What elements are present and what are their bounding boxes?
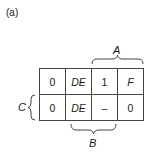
brace-b-label: B xyxy=(89,137,96,149)
braces-overlay xyxy=(0,0,155,168)
brace-c-icon xyxy=(28,95,35,120)
brace-a-icon xyxy=(92,55,143,64)
brace-c-label: C xyxy=(18,101,26,113)
brace-b-icon xyxy=(71,124,116,134)
brace-a-label: A xyxy=(113,44,120,56)
